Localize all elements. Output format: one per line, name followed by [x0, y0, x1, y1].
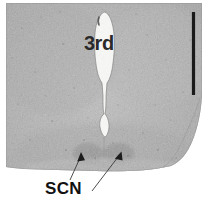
ventricle-apex-notch [98, 17, 99, 25]
third-ventricle-label: 3rd [84, 33, 114, 53]
scn-label: SCN [45, 180, 82, 197]
micrograph-figure: 3rd SCN [0, 0, 210, 207]
